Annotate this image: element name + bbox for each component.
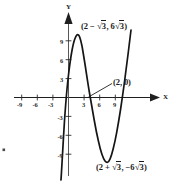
sqrt-3-max-2: √3 (115, 22, 125, 31)
sqrt-3-min: √3 (112, 163, 122, 172)
x-tick-label-neg3: -3 (48, 101, 53, 108)
y-tick-label-9: 9 (60, 38, 63, 45)
local-maximum-middle: , 6 (106, 21, 114, 31)
radicand: 3 (116, 161, 121, 172)
intercept-leader-line (89, 84, 113, 98)
local-minimum-suffix: ) (144, 162, 147, 172)
radicand: 3 (101, 20, 106, 31)
local-minimum-label: (2 + √3, −6√3) (96, 163, 147, 172)
local-minimum-prefix: (2 + (96, 162, 112, 172)
y-tick-label-neg9: -9 (58, 152, 63, 159)
x-axis-arrowhead (150, 94, 160, 102)
x-tick-label-neg6: -6 (33, 101, 38, 108)
cubic-curve (61, 30, 131, 180)
y-tick-label-neg3: -3 (58, 114, 63, 121)
x-tick-label-3: 3 (82, 101, 85, 108)
local-maximum-prefix: (2 − (81, 21, 97, 31)
local-maximum-label: (2 − √3, 6√3) (81, 22, 127, 31)
y-axis-label: Y (66, 3, 71, 11)
scan-speck (3, 149, 6, 152)
graph-figure: X Y -9 -6 -3 3 6 9 9 6 3 -3 -6 -9 (2 − √… (0, 0, 179, 190)
sqrt-3-min-2: √3 (134, 163, 144, 172)
y-axis-arrowhead (64, 12, 72, 24)
local-maximum-suffix: ) (124, 21, 127, 31)
x-axis-label: X (163, 93, 168, 101)
radicand: 3 (139, 161, 144, 172)
radicand: 3 (119, 20, 124, 31)
x-intercept-label: (2, 0) (113, 78, 131, 87)
x-tick-label-neg9: -9 (17, 101, 22, 108)
y-tick-label-neg6: -6 (58, 133, 63, 140)
sqrt-3-max: √3 (97, 22, 107, 31)
local-minimum-middle: , −6 (121, 162, 134, 172)
y-tick-label-6: 6 (60, 57, 63, 64)
x-tick-label-6: 6 (98, 101, 101, 108)
x-tick-label-9: 9 (113, 101, 116, 108)
y-tick-label-3: 3 (60, 76, 63, 83)
